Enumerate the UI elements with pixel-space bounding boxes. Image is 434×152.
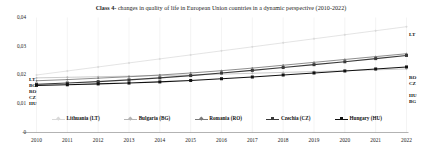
data-point-lt-2012	[97, 66, 99, 68]
x-axis-tick-2021: 2021	[362, 138, 390, 143]
data-point-ro-2011	[66, 78, 68, 80]
data-point-hu-2013	[128, 82, 131, 85]
x-axis-tick-2016: 2016	[208, 138, 236, 143]
y-axis-tick-0-01: 0,01	[4, 101, 26, 106]
data-point-lt-2011	[66, 70, 68, 72]
data-point-lt-2019	[313, 38, 315, 40]
y-axis-tick-0-02: 0,02	[4, 72, 26, 77]
series-start-label-hu: HU	[29, 101, 37, 106]
data-point-ro-2015	[189, 72, 191, 74]
data-point-cz-2022	[405, 54, 408, 57]
data-point-hu-2020	[343, 69, 346, 72]
data-point-hu-2018	[282, 74, 285, 77]
data-point-hu-2015	[189, 79, 192, 82]
data-point-lt-2021	[374, 30, 376, 32]
data-point-ro-2012	[97, 77, 99, 79]
data-point-hu-2019	[313, 71, 316, 74]
x-axis-tick-2017: 2017	[238, 138, 266, 143]
data-point-cz-2017	[251, 69, 254, 72]
x-axis-tick-2015: 2015	[177, 138, 205, 143]
legend-swatch-ro-icon	[195, 116, 208, 123]
series-end-label-hu: HU	[409, 93, 417, 98]
data-point-cz-2018	[282, 66, 285, 69]
legend-label-ro: Romania (RO)	[209, 116, 242, 121]
legend-label-bg: Bulgaria (BG)	[139, 116, 171, 121]
data-point-hu-2022	[405, 65, 408, 68]
data-point-ro-2010	[35, 80, 37, 82]
data-point-hu-2017	[251, 76, 254, 79]
data-point-cz-2020	[343, 60, 346, 63]
series-end-label-bg: BG	[409, 99, 416, 104]
data-point-lt-2022	[405, 26, 407, 28]
data-point-lt-2015	[189, 54, 191, 56]
data-point-lt-2014	[159, 58, 161, 60]
x-axis-tick-2014: 2014	[146, 138, 174, 143]
chart-figure: Class 4- changes in quality of life in E…	[0, 0, 434, 152]
x-axis-tick-2010: 2010	[23, 138, 51, 143]
y-axis-tick-0-04: 0,04	[4, 15, 26, 20]
series-start-label-cz: CZ	[29, 95, 36, 100]
legend-label-hu: Hungary (HU)	[350, 116, 382, 121]
data-point-cz-2014	[158, 76, 161, 79]
legend-swatch-lt-icon	[52, 116, 65, 123]
legend-item-cz[interactable]: Czechia (CZ)	[266, 116, 310, 123]
data-point-hu-2021	[374, 67, 377, 70]
legend-label-lt: Lithuania (LT)	[67, 116, 100, 121]
data-point-lt-2013	[128, 62, 130, 64]
x-axis-tick-2013: 2013	[115, 138, 143, 143]
series-start-label-bg: BG	[29, 83, 36, 88]
data-point-lt-2020	[344, 34, 346, 36]
legend-label-cz: Czechia (CZ)	[281, 116, 311, 121]
series-start-label-lt: LT	[29, 77, 35, 82]
data-point-lt-2017	[251, 46, 253, 48]
data-point-lt-2018	[282, 42, 284, 44]
data-point-cz-2013	[128, 78, 131, 81]
legend-swatch-cz-icon	[266, 116, 279, 123]
chart-legend: Lithuania (LT)Bulgaria (BG)Romania (RO)C…	[52, 114, 382, 124]
data-point-hu-2011	[66, 83, 69, 86]
x-axis-tick-2022: 2022	[393, 138, 421, 143]
data-point-hu-2016	[220, 77, 223, 80]
data-point-cz-2021	[374, 57, 377, 60]
legend-item-ro[interactable]: Romania (RO)	[195, 116, 242, 123]
y-axis-tick-0-03: 0,03	[4, 44, 26, 49]
plot-area	[0, 0, 434, 152]
data-point-lt-2016	[220, 50, 222, 52]
x-axis-tick-2019: 2019	[300, 138, 328, 143]
data-point-bg-2017	[251, 72, 253, 74]
data-point-cz-2019	[313, 63, 316, 66]
x-axis-tick-2020: 2020	[331, 138, 359, 143]
series-end-label-lt: LT	[409, 32, 415, 37]
data-point-cz-2016	[220, 71, 223, 74]
y-axis-tick-0: 0	[4, 130, 26, 135]
series-end-label-cz: CZ	[409, 81, 416, 86]
legend-item-lt[interactable]: Lithuania (LT)	[52, 116, 100, 123]
legend-item-bg[interactable]: Bulgaria (BG)	[124, 116, 170, 123]
data-point-bg-2018	[282, 71, 284, 73]
data-point-cz-2015	[189, 74, 192, 77]
data-point-bg-2010	[35, 77, 37, 79]
legend-swatch-bg-icon	[124, 116, 137, 123]
legend-item-hu[interactable]: Hungary (HU)	[335, 116, 382, 123]
x-axis-tick-2018: 2018	[269, 138, 297, 143]
data-point-bg-2011	[66, 76, 68, 78]
data-point-hu-2014	[158, 80, 161, 83]
x-axis-tick-2012: 2012	[84, 138, 112, 143]
legend-swatch-hu-icon	[335, 116, 348, 123]
data-point-lt-2010	[35, 74, 37, 76]
x-axis-tick-2011: 2011	[53, 138, 81, 143]
series-end-label-ro: RO	[409, 75, 417, 80]
data-point-hu-2012	[97, 82, 100, 85]
series-start-label-ro: RO	[29, 89, 37, 94]
